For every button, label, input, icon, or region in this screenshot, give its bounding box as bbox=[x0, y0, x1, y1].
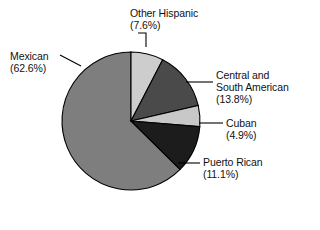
pie-label-mexican: Mexican (62.6%) bbox=[10, 50, 48, 74]
pie-label-central-south-american-name-line2: South American bbox=[216, 81, 289, 93]
pie-label-central-south-american-name-line1: Central and bbox=[216, 69, 289, 81]
leader-line-other-hispanic bbox=[138, 33, 146, 47]
pie-label-puerto-rican-name: Puerto Rican bbox=[203, 156, 263, 168]
leader-line-mexican bbox=[60, 55, 81, 66]
pie-label-cuban-name: Cuban bbox=[226, 117, 256, 129]
pie-chart-graphic bbox=[0, 0, 320, 230]
pie-label-mexican-percent: (62.6%) bbox=[10, 62, 48, 74]
pie-label-other-hispanic: Other Hispanic (7.6%) bbox=[130, 7, 198, 31]
pie-chart-figure: Other Hispanic (7.6%) Mexican (62.6%) Ce… bbox=[0, 0, 320, 230]
pie-label-central-south-american: Central and South American (13.8%) bbox=[216, 69, 289, 106]
pie-label-central-south-american-percent: (13.8%) bbox=[216, 93, 289, 105]
pie-label-other-hispanic-percent: (7.6%) bbox=[130, 19, 198, 31]
pie-label-other-hispanic-name: Other Hispanic bbox=[130, 7, 198, 19]
pie-label-mexican-name: Mexican bbox=[10, 50, 48, 62]
pie-label-puerto-rican: Puerto Rican (11.1%) bbox=[203, 156, 263, 180]
pie-label-cuban: Cuban (4.9%) bbox=[226, 117, 256, 141]
pie-label-puerto-rican-percent: (11.1%) bbox=[203, 168, 263, 180]
pie-label-cuban-percent: (4.9%) bbox=[226, 129, 256, 141]
